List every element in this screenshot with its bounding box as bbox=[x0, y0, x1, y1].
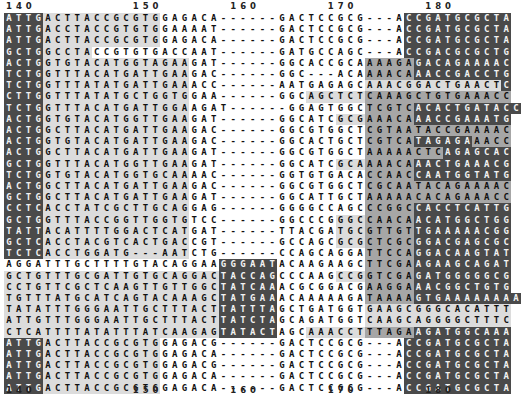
residue-cell: C bbox=[92, 114, 102, 125]
residue-cell: G bbox=[111, 203, 121, 214]
residue-cell: A bbox=[102, 136, 112, 147]
residue-cell: C bbox=[462, 282, 472, 293]
residue-cell: A bbox=[43, 24, 53, 35]
residue-cell: A bbox=[4, 147, 14, 158]
residue-cell: - bbox=[228, 69, 238, 80]
residue-cell: A bbox=[199, 259, 209, 270]
residue-cell: C bbox=[14, 47, 24, 58]
residue-cell: - bbox=[267, 181, 277, 192]
residue-cell: C bbox=[199, 371, 209, 382]
residue-cell: T bbox=[482, 315, 492, 326]
residue-cell: T bbox=[102, 259, 112, 270]
residue-cell: T bbox=[501, 304, 511, 315]
residue-cell: C bbox=[248, 315, 258, 326]
residue-cell: C bbox=[199, 315, 209, 326]
residue-cell: G bbox=[121, 114, 131, 125]
residue-cell: C bbox=[404, 371, 414, 382]
residue-cell: G bbox=[277, 215, 287, 226]
residue-cell: C bbox=[482, 147, 492, 158]
residue-cell: C bbox=[492, 271, 502, 282]
residue-cell: G bbox=[199, 293, 209, 304]
residue-cell: - bbox=[267, 248, 277, 259]
residue-cell: A bbox=[189, 35, 199, 46]
residue-cell: G bbox=[306, 248, 316, 259]
residue-cell: A bbox=[180, 147, 190, 158]
residue-cell: T bbox=[14, 371, 24, 382]
residue-cell: A bbox=[160, 248, 170, 259]
residue-cell: - bbox=[238, 203, 248, 214]
residue-cell: - bbox=[258, 35, 268, 46]
residue-cell: T bbox=[355, 136, 365, 147]
residue-cell: A bbox=[453, 304, 463, 315]
residue-cell: G bbox=[111, 349, 121, 360]
residue-cell: A bbox=[375, 114, 385, 125]
residue-cell: G bbox=[501, 114, 511, 125]
residue-cell: C bbox=[501, 125, 511, 136]
residue-cell: G bbox=[131, 170, 141, 181]
residue-cell: G bbox=[472, 24, 482, 35]
residue-cell: C bbox=[472, 327, 482, 338]
residue-cell: C bbox=[277, 248, 287, 259]
residue-cell: T bbox=[4, 170, 14, 181]
residue-cell: T bbox=[24, 125, 34, 136]
residue-cell: G bbox=[501, 282, 511, 293]
residue-cell: A bbox=[482, 170, 492, 181]
residue-cell: C bbox=[404, 203, 414, 214]
residue-cell: A bbox=[199, 125, 209, 136]
residue-cell: T bbox=[394, 103, 404, 114]
residue-cell: G bbox=[33, 24, 43, 35]
residue-cell: A bbox=[433, 170, 443, 181]
residue-cell: - bbox=[248, 338, 258, 349]
residue-cell: G bbox=[4, 215, 14, 226]
residue-cell: C bbox=[326, 58, 336, 69]
residue-cell: G bbox=[131, 349, 141, 360]
residue-cell: C bbox=[345, 24, 355, 35]
residue-cell: A bbox=[199, 136, 209, 147]
residue-cell: C bbox=[14, 181, 24, 192]
residue-cell: A bbox=[336, 80, 346, 91]
residue-cell: T bbox=[492, 35, 502, 46]
residue-cell: G bbox=[160, 349, 170, 360]
residue-cell: C bbox=[160, 203, 170, 214]
residue-cell: - bbox=[365, 35, 375, 46]
residue-cell: A bbox=[287, 47, 297, 58]
residue-cell: G bbox=[277, 147, 287, 158]
residue-cell: T bbox=[199, 248, 209, 259]
residue-cell: A bbox=[492, 293, 502, 304]
residue-cell: G bbox=[326, 80, 336, 91]
residue-cell: A bbox=[287, 360, 297, 371]
residue-cell: - bbox=[267, 69, 277, 80]
residue-cell: - bbox=[238, 114, 248, 125]
residue-cell: - bbox=[258, 125, 268, 136]
residue-cell: A bbox=[404, 248, 414, 259]
residue-cell: A bbox=[501, 35, 511, 46]
residue-cell: T bbox=[492, 282, 502, 293]
residue-cell: A bbox=[462, 69, 472, 80]
residue-cell: A bbox=[336, 47, 346, 58]
residue-cell: T bbox=[248, 304, 258, 315]
residue-cell: G bbox=[453, 371, 463, 382]
residue-cell: G bbox=[14, 259, 24, 270]
residue-cell: T bbox=[111, 69, 121, 80]
residue-cell: C bbox=[160, 226, 170, 237]
residue-cell: G bbox=[336, 58, 346, 69]
residue-cell: - bbox=[384, 24, 394, 35]
residue-cell: C bbox=[63, 282, 73, 293]
residue-cell: - bbox=[228, 24, 238, 35]
residue-cell: A bbox=[170, 371, 180, 382]
residue-cell: G bbox=[33, 338, 43, 349]
residue-cell: C bbox=[150, 315, 160, 326]
residue-cell: G bbox=[501, 159, 511, 170]
residue-cell: C bbox=[14, 237, 24, 248]
residue-cell: T bbox=[141, 13, 151, 24]
residue-cell: - bbox=[267, 338, 277, 349]
residue-cell: T bbox=[24, 91, 34, 102]
residue-cell: A bbox=[404, 125, 414, 136]
residue-cell: C bbox=[326, 47, 336, 58]
residue-cell: G bbox=[131, 58, 141, 69]
residue-cell: A bbox=[394, 35, 404, 46]
residue-cell: C bbox=[189, 237, 199, 248]
residue-cell: C bbox=[53, 24, 63, 35]
residue-cell: A bbox=[199, 147, 209, 158]
residue-cell: T bbox=[53, 304, 63, 315]
